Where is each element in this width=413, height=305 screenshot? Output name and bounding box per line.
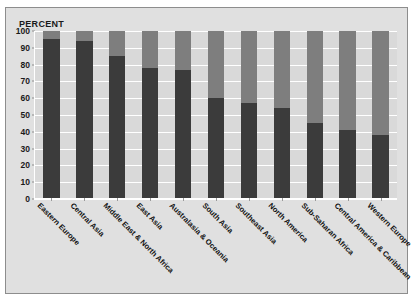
x-tick-mark xyxy=(84,198,85,201)
bar-segment-upper[interactable] xyxy=(241,31,257,103)
chart-panel: PERCENT 1009080706050403020100 Eastern E… xyxy=(5,7,408,294)
bar-segment-upper[interactable] xyxy=(175,31,191,70)
bar-group[interactable] xyxy=(109,31,125,199)
x-tick-label: South Asia xyxy=(201,201,235,235)
bar-segment-lower[interactable] xyxy=(274,108,290,199)
x-tick-mark xyxy=(282,198,283,201)
bar-segment-upper[interactable] xyxy=(274,31,290,108)
x-tick-mark xyxy=(216,198,217,201)
x-tick-mark xyxy=(381,198,382,201)
x-tick-label: East Asia xyxy=(135,201,165,231)
x-tick-mark xyxy=(117,198,118,201)
plot-area: 1009080706050403020100 xyxy=(35,31,397,199)
bar-segment-upper[interactable] xyxy=(142,31,158,68)
bar-group[interactable] xyxy=(43,31,59,199)
bar-segment-lower[interactable] xyxy=(76,41,92,199)
x-tick-mark xyxy=(249,198,250,201)
y-tick-label: 20 xyxy=(21,160,30,170)
bar-segment-upper[interactable] xyxy=(109,31,125,56)
y-tick-label: 30 xyxy=(21,144,30,154)
y-tick-label: 40 xyxy=(21,127,30,137)
bar-group[interactable] xyxy=(339,31,355,199)
bar-segment-upper[interactable] xyxy=(339,31,355,130)
y-tick-label: 60 xyxy=(21,93,30,103)
bar-segment-lower[interactable] xyxy=(307,123,323,199)
y-axis-line xyxy=(34,31,35,199)
bar-segment-lower[interactable] xyxy=(142,68,158,199)
y-tick-label: 0 xyxy=(25,194,30,204)
x-axis-labels: Eastern EuropeCentral AsiaMiddle East & … xyxy=(35,201,397,301)
bar-segment-upper[interactable] xyxy=(372,31,388,135)
y-tick-label: 90 xyxy=(21,43,30,53)
x-tick-mark xyxy=(51,198,52,201)
bar-group[interactable] xyxy=(175,31,191,199)
x-tick-mark xyxy=(348,198,349,201)
x-tick-label: Australasia & Oceania xyxy=(168,201,231,264)
bar-segment-lower[interactable] xyxy=(43,39,59,199)
bar-segment-lower[interactable] xyxy=(109,56,125,199)
y-tick-label: 80 xyxy=(21,60,30,70)
y-tick-label: 70 xyxy=(21,76,30,86)
bar-group[interactable] xyxy=(372,31,388,199)
bar-group[interactable] xyxy=(241,31,257,199)
bar-group[interactable] xyxy=(208,31,224,199)
y-tick-label: 100 xyxy=(16,26,30,36)
bar-segment-lower[interactable] xyxy=(175,70,191,199)
bar-segment-upper[interactable] xyxy=(208,31,224,98)
bar-segment-lower[interactable] xyxy=(241,103,257,199)
bar-group[interactable] xyxy=(274,31,290,199)
y-tick-label: 10 xyxy=(21,177,30,187)
bar-segment-upper[interactable] xyxy=(43,31,59,39)
bar-group[interactable] xyxy=(142,31,158,199)
chart-container: PERCENT 1009080706050403020100 Eastern E… xyxy=(0,0,413,305)
bar-group[interactable] xyxy=(76,31,92,199)
bar-segment-lower[interactable] xyxy=(339,130,355,199)
x-tick-mark xyxy=(183,198,184,201)
bar-segment-upper[interactable] xyxy=(307,31,323,123)
bar-group[interactable] xyxy=(307,31,323,199)
bar-segment-lower[interactable] xyxy=(208,98,224,199)
bar-segment-upper[interactable] xyxy=(76,31,92,41)
x-tick-mark xyxy=(315,198,316,201)
bar-segment-lower[interactable] xyxy=(372,135,388,199)
y-tick-label: 50 xyxy=(21,110,30,120)
x-tick-mark xyxy=(150,198,151,201)
